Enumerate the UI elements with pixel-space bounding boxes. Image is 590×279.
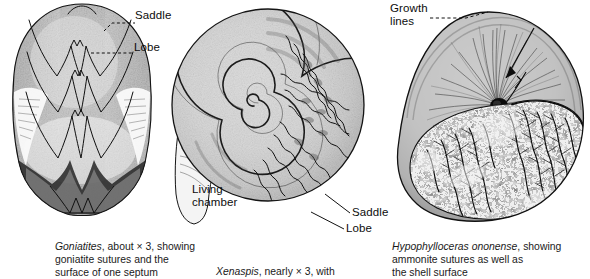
leader-saddle-goniatites bbox=[103, 10, 137, 32]
growth-lines-pointer-arrow bbox=[500, 26, 536, 82]
leader-lobe-goniatites bbox=[90, 44, 134, 58]
leader-growth-lines bbox=[430, 8, 490, 24]
hypophylloceras-drawing bbox=[393, 8, 590, 226]
caption-hypophylloceras: Hypophylloceras ononense, showing ammoni… bbox=[392, 227, 588, 279]
label-saddle-xenaspis: Saddle bbox=[352, 206, 388, 219]
panel-goniatites-illustration bbox=[0, 0, 165, 225]
caption-goniatites: Goniatites, about × 3, showing goniatite… bbox=[55, 227, 205, 279]
caption-species-goniatites: Goniatites bbox=[55, 241, 102, 252]
caption-species-xenaspis: Xenaspis bbox=[216, 266, 259, 277]
goniatites-drawing bbox=[0, 0, 165, 225]
leader-lobe-xenaspis bbox=[310, 211, 346, 231]
label-saddle-goniatites: Saddle bbox=[135, 9, 171, 22]
label-lobe-goniatites: Lobe bbox=[134, 41, 160, 54]
caption-xenaspis: Xenaspis, nearly × 3, with bbox=[216, 252, 386, 278]
caption-text-xenaspis: , nearly × 3, with bbox=[259, 266, 335, 277]
caption-species-hypophylloceras: Hypophylloceras ononense bbox=[392, 241, 517, 252]
label-living-chamber-xenaspis: Living chamber bbox=[192, 183, 254, 208]
label-lobe-xenaspis: Lobe bbox=[346, 222, 372, 235]
panel-hypophylloceras-illustration bbox=[393, 8, 590, 226]
